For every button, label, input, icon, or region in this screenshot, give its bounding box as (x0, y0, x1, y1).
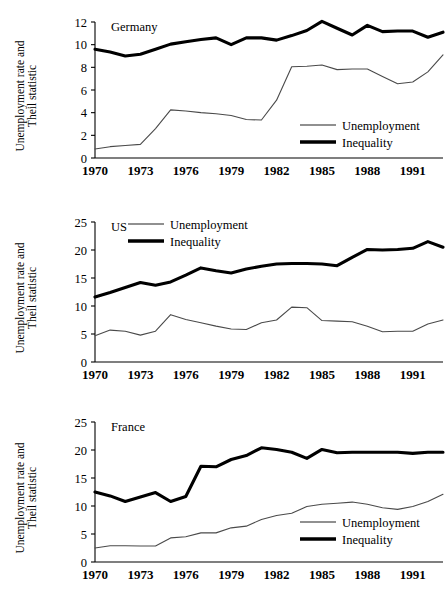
x-tick-label: 1988 (354, 367, 381, 382)
x-tick-label: 1985 (309, 163, 336, 178)
y-tick-label: 10 (75, 500, 88, 514)
y-tick-label: 10 (75, 300, 88, 314)
x-tick-label: 1982 (264, 567, 290, 582)
y-axis-title-line1: Unemployment rate and (14, 16, 26, 176)
series-line-inequality (95, 448, 443, 502)
y-tick-label: 25 (75, 216, 88, 230)
x-tick-label: 1991 (400, 163, 426, 178)
series-line-unemployment (95, 307, 443, 336)
y-tick-label: 5 (81, 328, 87, 342)
x-tick-label: 1979 (218, 163, 245, 178)
legend-label-inequality: Inequality (342, 136, 393, 150)
y-axis-title-line1: Unemployment rate and (14, 418, 26, 578)
panel-title-france: France (111, 420, 145, 434)
x-tick-label: 1973 (127, 567, 154, 582)
x-tick-label: 1970 (82, 367, 108, 382)
y-tick-label: 20 (75, 444, 88, 458)
figure-unemployment-inequality: Unemployment rate and Theil statistic 02… (0, 0, 448, 603)
x-tick-label: 1988 (354, 567, 381, 582)
y-tick-label: 2 (81, 129, 87, 143)
x-tick-label: 1985 (309, 367, 336, 382)
x-tick-label: 1988 (354, 163, 381, 178)
x-tick-label: 1976 (173, 567, 200, 582)
x-tick-label: 1991 (400, 367, 426, 382)
y-axis-title-us: Unemployment rate and Theil statistic (14, 218, 38, 378)
plot-area-germany: 0246810121970197319761979198219851988199… (0, 0, 448, 200)
y-tick-label: 12 (75, 16, 88, 30)
y-axis-title-line1: Unemployment rate and (14, 218, 26, 378)
legend-label-inequality: Inequality (170, 235, 221, 249)
x-tick-label: 1973 (127, 163, 154, 178)
chart-panel-france: Unemployment rate and Theil statistic 05… (0, 402, 448, 603)
x-tick-label: 1976 (173, 367, 200, 382)
chart-panel-us: Unemployment rate and Theil statistic 05… (0, 200, 448, 402)
legend-label-unemployment: Unemployment (342, 119, 420, 133)
y-axis-title-line2: Theil statistic (26, 418, 38, 578)
x-tick-label: 1979 (218, 567, 245, 582)
y-tick-label: 15 (75, 472, 88, 486)
series-line-inequality (95, 242, 443, 297)
x-tick-label: 1973 (127, 367, 154, 382)
y-axis-title-germany: Unemployment rate and Theil statistic (14, 16, 38, 176)
y-tick-label: 5 (81, 528, 87, 542)
plot-area-france: 0510152025197019731976197919821985198819… (0, 402, 448, 603)
y-axis-title-line2: Theil statistic (26, 16, 38, 176)
panel-title-germany: Germany (111, 20, 158, 34)
x-tick-label: 1982 (264, 163, 290, 178)
x-tick-label: 1991 (400, 567, 426, 582)
x-tick-label: 1970 (82, 163, 108, 178)
x-tick-label: 1979 (218, 367, 245, 382)
y-tick-label: 6 (81, 84, 87, 98)
x-tick-label: 1985 (309, 567, 336, 582)
legend-label-unemployment: Unemployment (342, 516, 420, 530)
x-tick-label: 1976 (173, 163, 200, 178)
y-axis-title-line2: Theil statistic (26, 218, 38, 378)
chart-panel-germany: Unemployment rate and Theil statistic 02… (0, 0, 448, 200)
y-tick-label: 8 (81, 61, 87, 75)
y-tick-label: 4 (81, 106, 88, 120)
x-tick-label: 1970 (82, 567, 108, 582)
legend-label-inequality: Inequality (342, 533, 393, 547)
y-axis-title-france: Unemployment rate and Theil statistic (14, 418, 38, 578)
y-tick-label: 20 (75, 244, 88, 258)
plot-area-us: 0510152025197019731976197919821985198819… (0, 200, 448, 402)
y-tick-label: 10 (75, 38, 88, 52)
panel-title-us: US (111, 220, 127, 234)
legend-label-unemployment: Unemployment (170, 218, 248, 232)
y-tick-label: 25 (75, 416, 88, 430)
y-tick-label: 15 (75, 272, 88, 286)
x-tick-label: 1982 (264, 367, 290, 382)
